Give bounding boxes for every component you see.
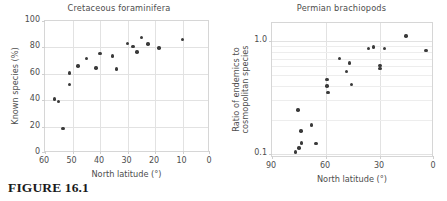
gridline-horizontal-minor bbox=[272, 120, 432, 121]
x-tick bbox=[45, 151, 46, 154]
scatter-plot-permian bbox=[271, 22, 433, 157]
data-point bbox=[61, 127, 64, 130]
data-point bbox=[314, 142, 317, 145]
x-tick bbox=[272, 156, 273, 159]
panel-title-left: Cretaceous foraminifera bbox=[0, 3, 224, 13]
gridline-horizontal bbox=[272, 154, 432, 155]
data-point bbox=[325, 84, 328, 87]
figure-caption: FIGURE 16.1 bbox=[8, 180, 89, 196]
data-point bbox=[135, 50, 138, 53]
gridline-vertical bbox=[73, 21, 74, 151]
y-tick bbox=[269, 41, 272, 42]
data-point bbox=[57, 100, 60, 103]
x-tick-label: 30 bbox=[112, 156, 142, 165]
y-tick bbox=[42, 152, 45, 153]
y-tick bbox=[42, 74, 45, 75]
x-tick-label: 60 bbox=[29, 156, 59, 165]
panel-title-right: Permian brachiopods bbox=[224, 3, 447, 13]
x-tick-label: 90 bbox=[256, 161, 286, 170]
y-axis-title-left: Known species (%) bbox=[10, 20, 20, 152]
x-tick-label: 0 bbox=[418, 161, 447, 170]
x-tick bbox=[73, 151, 74, 154]
x-tick bbox=[128, 151, 129, 154]
x-tick-label: 50 bbox=[57, 156, 87, 165]
data-point bbox=[300, 141, 303, 144]
data-point bbox=[111, 54, 114, 57]
y-tick bbox=[269, 154, 272, 155]
data-point bbox=[296, 108, 299, 111]
data-point bbox=[140, 36, 143, 39]
data-point bbox=[345, 70, 348, 73]
x-tick-label: 40 bbox=[84, 156, 114, 165]
gridline-vertical bbox=[380, 23, 381, 156]
data-point bbox=[181, 38, 184, 41]
data-point bbox=[372, 45, 375, 48]
gridline-horizontal-minor bbox=[272, 66, 432, 67]
data-point bbox=[325, 78, 328, 81]
gridline-horizontal-minor bbox=[272, 86, 432, 87]
gridline-horizontal bbox=[45, 100, 208, 101]
y-tick bbox=[42, 100, 45, 101]
data-point bbox=[310, 123, 313, 126]
data-point bbox=[68, 83, 71, 86]
gridline-horizontal bbox=[45, 127, 208, 128]
x-axis-title-right: North latitude (°) bbox=[271, 174, 433, 184]
data-point bbox=[297, 146, 300, 149]
x-tick bbox=[209, 151, 210, 154]
data-point bbox=[146, 42, 149, 45]
data-point bbox=[98, 52, 101, 55]
x-tick-label: 10 bbox=[167, 156, 197, 165]
data-point bbox=[338, 57, 341, 60]
gridline-vertical bbox=[155, 21, 156, 151]
data-point bbox=[383, 47, 386, 50]
x-tick bbox=[380, 156, 381, 159]
gridline-horizontal bbox=[272, 41, 432, 42]
x-tick bbox=[100, 151, 101, 154]
x-tick bbox=[155, 151, 156, 154]
data-point bbox=[94, 66, 97, 69]
x-tick-label: 0 bbox=[194, 156, 224, 165]
panel-permian-brachiopods: Permian brachiopods 90603001.00.1 North … bbox=[224, 0, 447, 175]
gridline-vertical bbox=[326, 23, 327, 156]
y-tick bbox=[42, 47, 45, 48]
x-tick bbox=[433, 156, 434, 159]
data-point bbox=[424, 49, 427, 52]
data-point bbox=[326, 91, 329, 94]
data-point bbox=[350, 83, 353, 86]
gridline-horizontal bbox=[45, 47, 208, 48]
data-point bbox=[299, 129, 302, 132]
y-axis-title-right: Ratio of endemics to cosmopolitan specie… bbox=[232, 19, 251, 160]
data-point bbox=[404, 34, 407, 37]
gridline-horizontal-minor bbox=[272, 100, 432, 101]
gridline-horizontal-minor bbox=[272, 46, 432, 47]
data-point bbox=[367, 47, 370, 50]
gridline-horizontal-minor bbox=[272, 52, 432, 53]
gridline-horizontal-minor bbox=[272, 59, 432, 60]
x-tick-label: 30 bbox=[364, 161, 394, 170]
y-tick bbox=[42, 21, 45, 22]
data-point bbox=[85, 57, 88, 60]
y-tick bbox=[42, 127, 45, 128]
x-tick-label: 60 bbox=[310, 161, 340, 170]
data-point bbox=[126, 42, 129, 45]
x-tick-label: 20 bbox=[139, 156, 169, 165]
x-tick bbox=[183, 151, 184, 154]
data-point bbox=[53, 97, 56, 100]
gridline-vertical bbox=[100, 21, 101, 151]
data-point bbox=[294, 150, 297, 153]
panel-cretaceous-foraminifera: Cretaceous foraminifera 6050403020100020… bbox=[0, 0, 224, 175]
x-axis-title-left: North latitude (°) bbox=[44, 169, 209, 179]
figure-16-1: Cretaceous foraminifera 6050403020100020… bbox=[0, 0, 447, 201]
scatter-plot-cretaceous bbox=[44, 20, 209, 152]
data-point bbox=[115, 67, 118, 70]
data-point bbox=[378, 67, 381, 70]
x-tick bbox=[326, 156, 327, 159]
data-point bbox=[76, 64, 79, 67]
gridline-vertical bbox=[128, 21, 129, 151]
data-point bbox=[348, 61, 351, 64]
data-point bbox=[157, 46, 160, 49]
gridline-horizontal-minor bbox=[272, 75, 432, 76]
